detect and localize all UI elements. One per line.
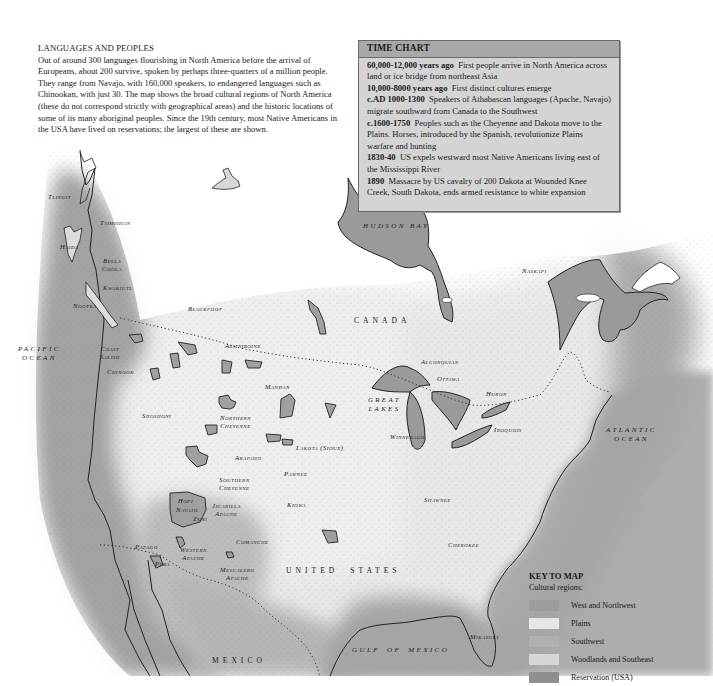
legend-label: West and Northwest xyxy=(571,601,636,610)
label-winnebago: Winnebago xyxy=(390,433,425,440)
label-southern-cheyenne: Southern Cheyenne xyxy=(219,476,250,492)
label-huron: Huron xyxy=(486,390,507,397)
entry-date: c.AD 1000-1300 xyxy=(367,94,425,104)
time-chart-entry: c.1600-1750 Peoples such as the Cheyenne… xyxy=(367,118,611,153)
label-northern-cheyenne: Northern Cheyenne xyxy=(220,414,251,430)
legend-label: Reservation (USA) xyxy=(571,673,633,682)
legend-item: Plains xyxy=(529,614,713,632)
label-iroquois: Iroquois xyxy=(494,426,522,433)
time-chart-entry: c.AD 1000-1300 Speakers of Athabascan la… xyxy=(367,94,611,117)
entry-date: 1830-40 xyxy=(367,152,396,162)
entry-date: 10,000-8000 years ago xyxy=(367,83,447,93)
legend-subtitle: Cultural regions: xyxy=(529,583,713,592)
legend-swatch-woodlands-southeast xyxy=(529,654,559,665)
legend-label: Southwest xyxy=(571,637,604,646)
intro-text-block: LANGUAGES AND PEOPLES Out of around 300 … xyxy=(38,43,338,136)
label-pacific-ocean: PACIFIC OCEAN xyxy=(18,345,61,363)
map-legend: KEY TO MAP Cultural regions: West and No… xyxy=(529,571,713,686)
label-gulf-of-mexico: GULF OF MEXICO xyxy=(352,646,449,655)
label-haida: Haida xyxy=(60,243,79,250)
label-mescalero-apache: Mescalero Apache xyxy=(220,566,254,582)
label-pima: Pima xyxy=(155,560,170,567)
label-algonquian: Algonquian xyxy=(421,358,459,365)
legend-swatch-reservation xyxy=(529,672,559,683)
label-mexico: MEXICO xyxy=(212,656,266,665)
time-chart-title: TIME CHART xyxy=(359,41,619,58)
label-ottawa: Ottawa xyxy=(437,375,460,382)
label-atlantic-ocean: ATLANTIC OCEAN xyxy=(606,426,657,444)
label-coast-salish: Coast Salish xyxy=(100,345,120,361)
label-lakota-sioux: Lakota (Sioux) xyxy=(296,444,343,451)
time-chart-entry: 1830-40 US expels westward most Native A… xyxy=(367,152,611,175)
legend-item: Woodlands and Southeast xyxy=(529,650,713,668)
time-chart-entry: 1890 Massacre by US cavalry of 200 Dakot… xyxy=(367,176,611,199)
reservation-shape xyxy=(266,434,281,442)
time-chart-entry: 10,000-8000 years ago First distinct cul… xyxy=(367,83,611,95)
legend-label: Woodlands and Southeast xyxy=(571,655,653,664)
intro-title: LANGUAGES AND PEOPLES xyxy=(38,43,338,55)
entry-text: First distinct cultures emerge xyxy=(452,83,552,93)
legend-swatch-west-northwest xyxy=(529,600,559,611)
entry-text: Massacre by US cavalry of 200 Dakota at … xyxy=(367,176,587,198)
time-chart-panel: TIME CHART 60,000-12,000 years ago First… xyxy=(358,40,620,212)
label-tsimshian: Tsimshian xyxy=(100,219,131,226)
legend-label: Plains xyxy=(571,619,591,628)
time-chart-entry: 60,000-12,000 years ago First people arr… xyxy=(367,60,611,83)
legend-item: Southwest xyxy=(529,632,713,650)
label-western-apache: Western Apache xyxy=(180,546,207,562)
label-jicarilla-apache: Jicarilla Apache xyxy=(212,502,241,518)
label-nootka: Nootka xyxy=(73,302,97,309)
reservation-shape xyxy=(282,439,293,445)
label-united-states: UNITED STATES xyxy=(286,566,401,575)
label-shawnee: Shawnee xyxy=(424,496,451,503)
label-kiowa: Kiowa xyxy=(287,501,306,508)
label-cherokee: Cherokee xyxy=(448,541,479,548)
intro-body: Out of around 300 languages flourishing … xyxy=(38,55,338,136)
label-blackfoot: Blackfoot xyxy=(188,305,222,312)
label-kwakiutl: Kwakiutl xyxy=(103,284,132,291)
label-mikasuki: Mikasuki xyxy=(470,633,499,640)
label-mandan: Mandan xyxy=(265,383,290,390)
label-bella-coola: Bella Coola xyxy=(102,257,122,273)
entry-date: c.1600-1750 xyxy=(367,118,410,128)
legend-title: KEY TO MAP xyxy=(529,571,713,581)
label-comanche: Comanche xyxy=(236,538,269,545)
legend-item: West and Northwest xyxy=(529,596,713,614)
label-tlingit: Tlingit xyxy=(48,193,71,200)
legend-swatch-southwest xyxy=(529,636,559,647)
label-hopi: Hopi xyxy=(178,497,193,504)
label-naskapi: Naskapi xyxy=(522,267,547,274)
reservation-shape xyxy=(222,360,232,373)
label-arapaho: Arapaho xyxy=(235,454,261,461)
label-canada: CANADA xyxy=(354,316,411,325)
label-assiniboine: Assiniboine xyxy=(225,342,261,349)
time-chart-entries: 60,000-12,000 years ago First people arr… xyxy=(359,58,619,199)
label-papago: Papago xyxy=(135,543,158,550)
label-shoshoni: Shoshoni xyxy=(142,412,171,419)
entry-date: 60,000-12,000 years ago xyxy=(367,60,454,70)
label-zuni: Zuni xyxy=(193,515,207,522)
label-navajo: Navajo xyxy=(176,506,198,513)
label-pawnee: Pawnee xyxy=(284,470,308,477)
label-great-lakes: GREAT LAKES xyxy=(368,395,401,413)
legend-swatch-plains xyxy=(529,618,559,629)
label-chinook: Chinook xyxy=(107,368,134,375)
entry-date: 1890 xyxy=(367,176,384,186)
label-hudson-bay: HUDSON BAY xyxy=(363,222,429,231)
legend-item: Reservation (USA) xyxy=(529,668,713,686)
entry-text: US expels westward most Native Americans… xyxy=(367,152,600,174)
